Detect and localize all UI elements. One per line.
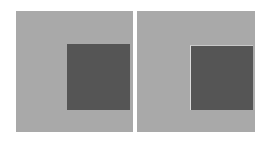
right-dark-square — [190, 45, 253, 110]
right-panel — [0, 0, 268, 142]
